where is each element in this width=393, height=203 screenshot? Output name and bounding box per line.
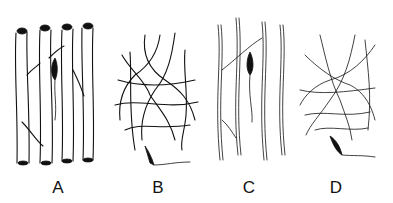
panel-label-c: C	[239, 178, 259, 198]
panel-d-drawing	[300, 35, 375, 157]
panel-c-drawing	[218, 18, 285, 160]
panel-label-d: D	[326, 178, 346, 198]
panel-a-drawing	[15, 23, 93, 165]
panel-b-drawing	[115, 33, 198, 165]
panel-label-b: B	[148, 178, 168, 198]
figure-diagram	[0, 0, 393, 203]
panel-label-a: A	[48, 178, 68, 198]
